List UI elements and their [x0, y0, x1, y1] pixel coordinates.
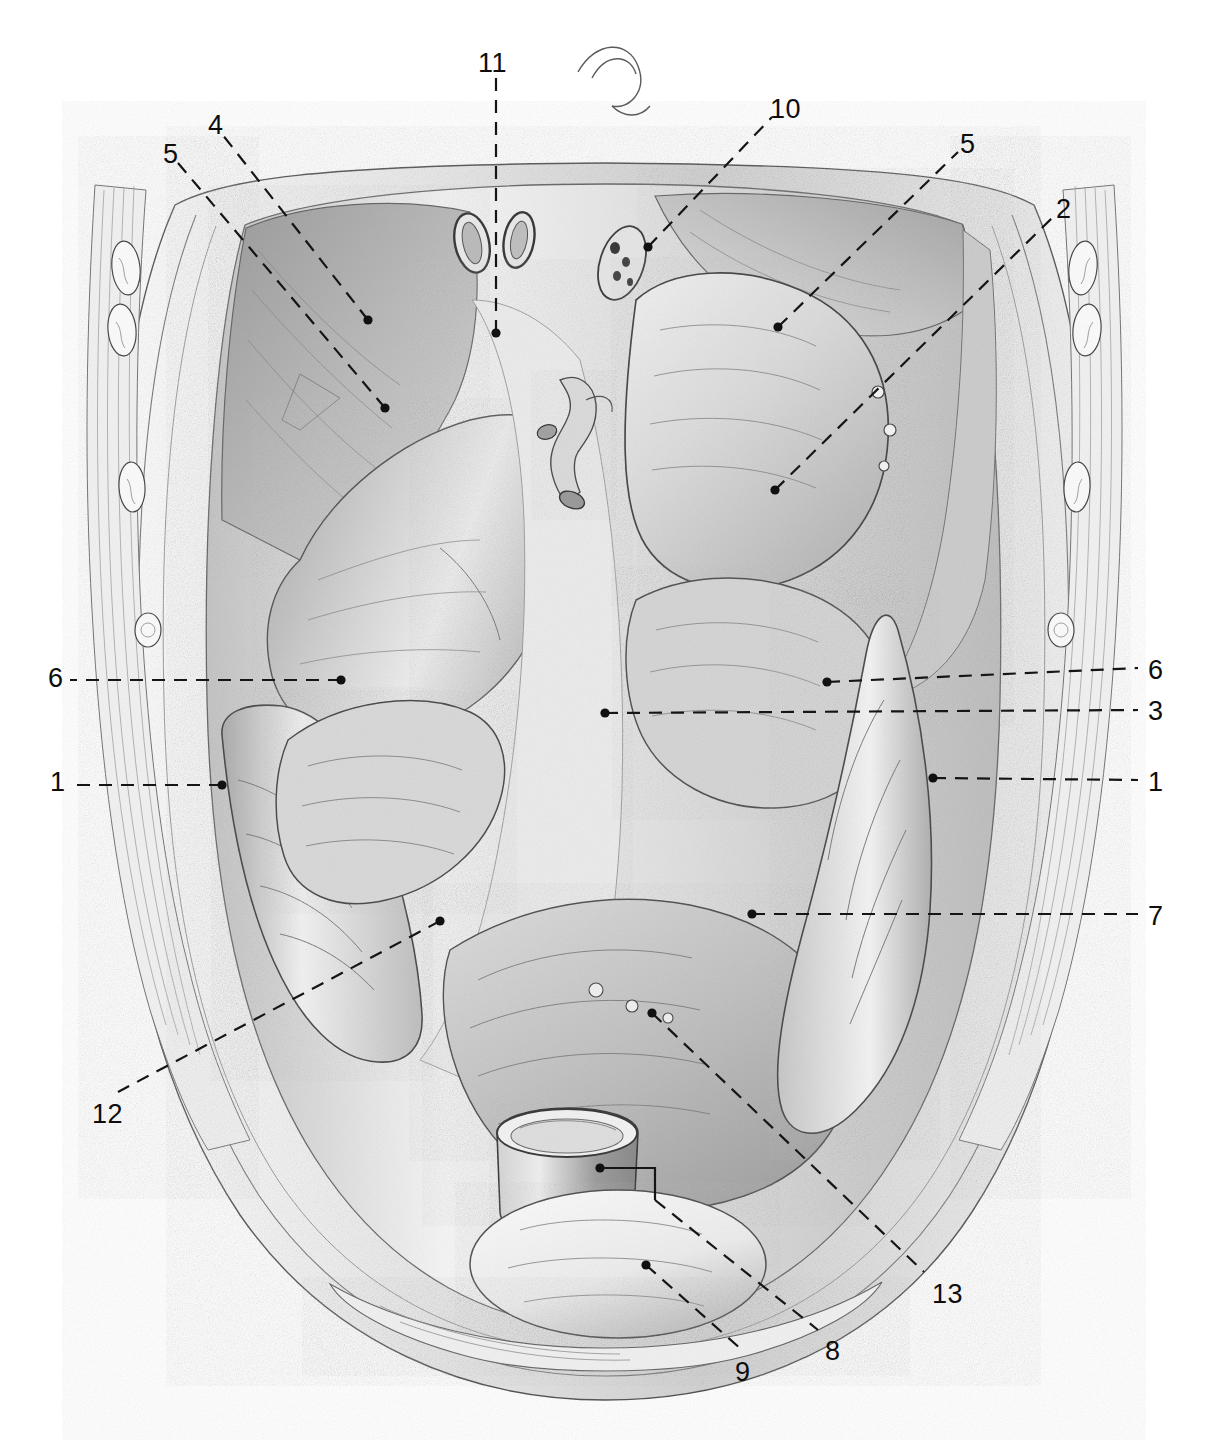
label-6-right: 6 [1148, 657, 1164, 684]
dot-4 [363, 315, 372, 324]
dot-1-left [217, 780, 226, 789]
label-9: 9 [735, 1359, 751, 1386]
label-12: 12 [92, 1101, 123, 1128]
anatomy-figure [0, 0, 1209, 1440]
label-10: 10 [770, 96, 801, 123]
label-11: 11 [478, 50, 507, 77]
label-3: 3 [1148, 698, 1164, 725]
dot-10 [643, 242, 652, 251]
label-13: 13 [932, 1281, 963, 1308]
dot-2 [770, 485, 779, 494]
label-5-right: 5 [960, 131, 976, 158]
dot-12 [435, 916, 444, 925]
dot-11 [491, 328, 500, 337]
label-8: 8 [825, 1338, 841, 1365]
dot-3 [600, 708, 609, 717]
label-1-right: 1 [1148, 769, 1164, 796]
dot-5-right [773, 322, 782, 331]
dot-9 [641, 1260, 650, 1269]
label-6-left: 6 [48, 665, 64, 692]
dot-8 [595, 1163, 604, 1172]
dot-6-left [336, 675, 345, 684]
label-1-left: 1 [50, 769, 66, 796]
urinary-bladder [470, 1190, 766, 1338]
label-7: 7 [1148, 903, 1164, 930]
dot-1-right [928, 773, 937, 782]
dot-5-left [380, 403, 389, 412]
label-2: 2 [1056, 196, 1072, 223]
dot-13 [647, 1008, 656, 1017]
anatomical-plate: 11 10 4 5 5 2 6 6 3 1 1 7 12 13 8 9 [0, 0, 1209, 1440]
label-5-left: 5 [163, 141, 179, 168]
dot-7 [747, 909, 756, 918]
label-4: 4 [208, 112, 224, 139]
dot-6-right [822, 677, 831, 686]
vessel-loops-superior [578, 47, 650, 115]
